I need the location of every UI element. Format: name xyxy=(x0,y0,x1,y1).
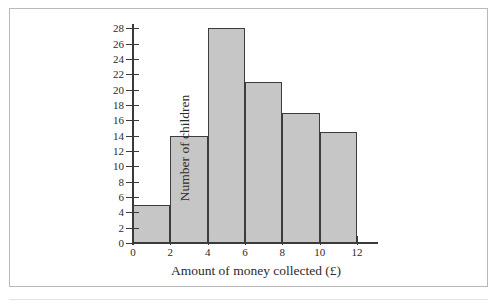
x-tick-label-10: 10 xyxy=(308,247,332,258)
y-tick-4 xyxy=(126,212,139,213)
y-tick-12 xyxy=(126,151,139,152)
y-tick-20 xyxy=(126,90,139,91)
y-tick-24 xyxy=(126,59,139,60)
x-tick-0 xyxy=(133,236,134,245)
y-tick-18 xyxy=(126,105,139,106)
y-tick-26 xyxy=(126,44,139,45)
x-tick-label-0: 0 xyxy=(121,247,145,258)
bar-8-10 xyxy=(282,113,319,244)
x-tick-6 xyxy=(245,236,246,245)
x-tick-label-8: 8 xyxy=(270,247,294,258)
x-tick-2 xyxy=(170,236,171,245)
histogram-figure: 0 2 4 6 8 10 12 14 16 18 20 22 24 26 28 … xyxy=(0,0,503,307)
y-tick-28 xyxy=(126,28,139,29)
y-tick-14 xyxy=(126,136,139,137)
y-tick-10 xyxy=(126,166,139,167)
plot-area: 0 2 4 6 8 10 12 14 16 18 20 22 24 26 28 … xyxy=(0,0,503,307)
y-tick-16 xyxy=(126,120,139,121)
bar-6-8 xyxy=(245,82,282,243)
y-tick-label-26: 26 xyxy=(102,39,124,50)
bar-4-6 xyxy=(208,28,245,243)
x-tick-4 xyxy=(208,236,209,245)
bar-0-2 xyxy=(133,205,170,243)
x-tick-10 xyxy=(320,236,321,245)
y-tick-8 xyxy=(126,182,139,183)
y-axis-title: Number of children xyxy=(177,48,193,248)
x-tick-label-2: 2 xyxy=(158,247,182,258)
x-tick-8 xyxy=(282,236,283,245)
x-axis-title: Amount of money collected (£) xyxy=(133,263,379,279)
y-tick-label-28: 28 xyxy=(102,23,124,34)
y-axis-title-wrapper: Number of children xyxy=(90,55,110,235)
y-tick-22 xyxy=(126,74,139,75)
y-tick-2 xyxy=(126,228,139,229)
x-axis-line xyxy=(132,242,378,244)
y-tick-6 xyxy=(126,197,139,198)
bar-10-12 xyxy=(320,132,357,243)
x-tick-label-12: 12 xyxy=(345,247,369,258)
x-tick-label-4: 4 xyxy=(196,247,220,258)
x-tick-label-6: 6 xyxy=(233,247,257,258)
x-tick-12 xyxy=(357,236,358,245)
